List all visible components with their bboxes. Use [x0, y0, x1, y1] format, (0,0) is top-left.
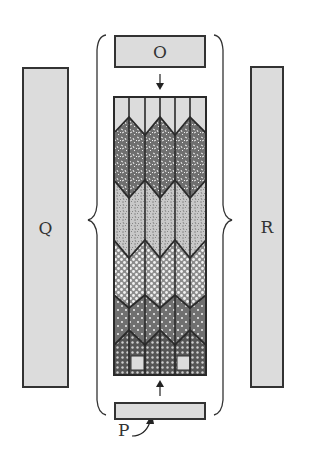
bottom-square-2 [177, 356, 190, 370]
right-bracket [214, 35, 232, 415]
label-r: R [261, 217, 274, 237]
bar-q: Q [22, 67, 69, 388]
bottom-square-1 [131, 356, 144, 370]
label-q: Q [39, 218, 53, 238]
bar-r: R [250, 66, 284, 388]
box-o: O [114, 35, 206, 68]
label-p: P [118, 420, 129, 440]
column-stack [114, 97, 206, 375]
arrow-down-icon [156, 74, 164, 90]
label-o: O [153, 42, 167, 62]
left-bracket [88, 35, 106, 415]
box-p [114, 402, 206, 420]
arrow-up-icon [156, 380, 164, 396]
